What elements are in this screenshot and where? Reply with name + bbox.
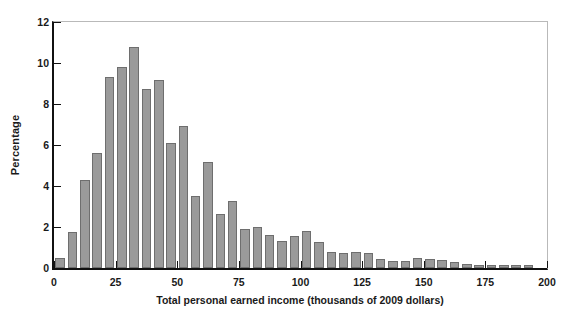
bar bbox=[55, 258, 65, 268]
x-tick-mark bbox=[547, 261, 548, 268]
y-tick-label: 8 bbox=[43, 98, 49, 110]
bar bbox=[253, 227, 263, 268]
bar bbox=[216, 214, 226, 268]
bar bbox=[487, 265, 497, 268]
x-tick-mark bbox=[116, 261, 117, 268]
bar bbox=[376, 259, 386, 268]
y-tick-label: 10 bbox=[37, 57, 49, 69]
y-tick-label: 12 bbox=[37, 16, 49, 28]
bar bbox=[499, 265, 509, 268]
x-axis-title: Total personal earned income (thousands … bbox=[52, 294, 548, 306]
x-tick-mark bbox=[485, 261, 486, 268]
bar bbox=[339, 253, 349, 268]
bar bbox=[68, 232, 78, 268]
bar bbox=[166, 143, 176, 268]
y-tick-label: 6 bbox=[43, 139, 49, 151]
bar bbox=[179, 126, 189, 268]
bar bbox=[511, 265, 521, 268]
x-tick-label: 25 bbox=[110, 276, 122, 288]
bar bbox=[450, 262, 460, 268]
bar bbox=[388, 261, 398, 268]
bar bbox=[462, 264, 472, 268]
bar bbox=[364, 253, 374, 268]
bar bbox=[277, 241, 287, 268]
bar bbox=[437, 260, 447, 268]
x-tick-label: 200 bbox=[538, 276, 556, 288]
y-tick-label: 0 bbox=[43, 262, 49, 274]
bar bbox=[314, 242, 324, 268]
x-tick-label: 175 bbox=[477, 276, 495, 288]
bar bbox=[80, 180, 90, 268]
x-tick-label: 0 bbox=[51, 276, 57, 288]
y-axis-title: Percentage bbox=[4, 0, 26, 290]
bar bbox=[117, 67, 127, 268]
bar bbox=[401, 261, 411, 268]
y-tick-mark bbox=[54, 22, 61, 23]
y-tick-mark bbox=[54, 227, 61, 228]
bar bbox=[191, 196, 201, 268]
y-tick-mark bbox=[54, 186, 61, 187]
y-tick-mark bbox=[54, 104, 61, 105]
bar bbox=[425, 259, 435, 268]
bar bbox=[290, 236, 300, 268]
x-tick-label: 125 bbox=[353, 276, 371, 288]
histogram-figure: Percentage 024681012 0255075100125150175… bbox=[0, 0, 576, 324]
bar bbox=[105, 77, 115, 268]
bar bbox=[129, 47, 139, 268]
bar bbox=[228, 201, 238, 268]
y-tick-label: 2 bbox=[43, 221, 49, 233]
bar bbox=[413, 258, 423, 268]
bar-series bbox=[54, 22, 547, 268]
bar bbox=[92, 153, 102, 268]
y-tick-mark bbox=[54, 268, 61, 269]
y-tick-label: 4 bbox=[43, 180, 49, 192]
plot-area: 024681012 0255075100125150175200 bbox=[52, 21, 548, 270]
x-tick-label: 100 bbox=[292, 276, 310, 288]
bar bbox=[524, 265, 534, 268]
x-tick-label: 150 bbox=[415, 276, 433, 288]
x-tick-mark bbox=[239, 261, 240, 268]
bar bbox=[154, 80, 164, 268]
y-tick-mark bbox=[54, 145, 61, 146]
bar bbox=[265, 235, 275, 268]
bar bbox=[203, 162, 213, 268]
y-tick-mark bbox=[54, 63, 61, 64]
x-tick-mark bbox=[177, 261, 178, 268]
bar bbox=[240, 229, 250, 268]
bar bbox=[474, 265, 484, 268]
x-tick-mark bbox=[424, 261, 425, 268]
bar bbox=[142, 89, 152, 268]
y-axis-title-text: Percentage bbox=[9, 115, 21, 175]
x-tick-mark bbox=[54, 261, 55, 268]
bar bbox=[351, 252, 361, 268]
x-tick-mark bbox=[362, 261, 363, 268]
bar bbox=[327, 252, 337, 268]
bar bbox=[302, 231, 312, 268]
x-tick-label: 75 bbox=[233, 276, 245, 288]
x-tick-mark bbox=[301, 261, 302, 268]
x-tick-label: 50 bbox=[171, 276, 183, 288]
